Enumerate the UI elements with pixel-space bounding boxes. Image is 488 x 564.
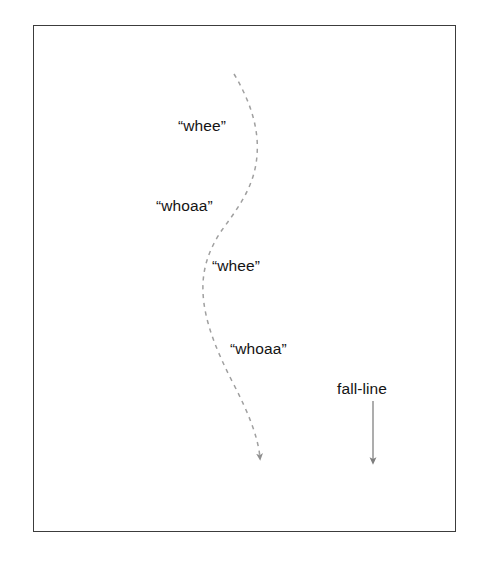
figure-canvas: “whee” “whoaa” “whee” “whoaa” fall-line xyxy=(0,0,488,564)
turn-label-whoaa-1: “whoaa” xyxy=(156,198,213,214)
turn-label-whoaa-2: “whoaa” xyxy=(230,341,287,357)
figure-vector-layer xyxy=(0,0,488,564)
turn-label-whee-1: “whee” xyxy=(178,118,226,134)
fall-line-label: fall-line xyxy=(337,381,387,397)
turn-label-whee-2: “whee” xyxy=(212,258,260,274)
